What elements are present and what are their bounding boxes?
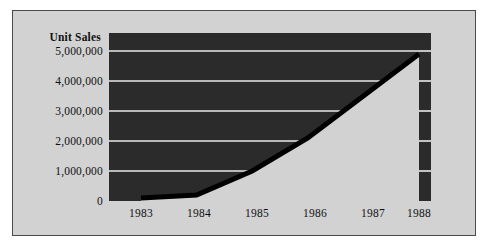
x-tick-label-1988: 1988 — [389, 207, 449, 219]
right-edge-band — [419, 33, 431, 201]
chart-figure: Unit Sales 5,000,000 4,000,000 3,000,000… — [12, 10, 476, 236]
y-tick-label-0: 0 — [13, 195, 103, 207]
x-tick-label-1983: 1983 — [111, 207, 171, 219]
x-tick-label-1986: 1986 — [285, 207, 345, 219]
y-tick-label-2000000: 2,000,000 — [13, 135, 103, 147]
y-axis-title: Unit Sales — [13, 31, 101, 43]
area-series-unit-sales — [141, 54, 419, 201]
x-tick-label-1984: 1984 — [169, 207, 229, 219]
y-tick-label-5000000: 5,000,000 — [13, 45, 103, 57]
y-tick-label-1000000: 1,000,000 — [13, 165, 103, 177]
plot-area — [109, 33, 431, 201]
chart-plot-svg — [109, 33, 431, 201]
x-tick-label-1985: 1985 — [227, 207, 287, 219]
y-tick-label-3000000: 3,000,000 — [13, 105, 103, 117]
y-tick-label-4000000: 4,000,000 — [13, 75, 103, 87]
